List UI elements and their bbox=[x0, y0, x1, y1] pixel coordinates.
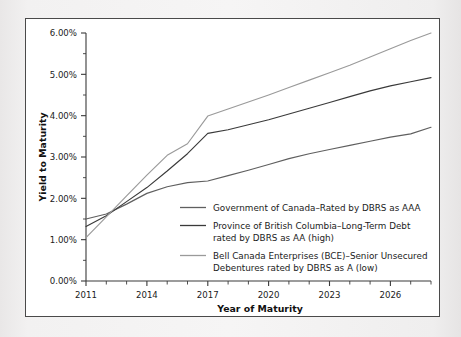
legend-label-bell-canada-enterprises: Bell Canada Enterprises (BCE)–Senior Uns… bbox=[213, 251, 428, 261]
y-tick-label: 3.00% bbox=[50, 152, 77, 162]
x-axis-title: Year of Maturity bbox=[216, 303, 303, 314]
y-axis-title: Yield to Maturity bbox=[37, 113, 48, 203]
yield-curve-chart: 6.00% 5.00% 4.00% 3.00% 2.00% 1.00% 0.00… bbox=[26, 19, 438, 315]
y-tick-label: 1.00% bbox=[50, 235, 77, 245]
legend-label-government-of-canada: Government of Canada–Rated by DBRS as AA… bbox=[213, 203, 421, 213]
y-tick-label: 0.00% bbox=[50, 276, 77, 286]
legend-label-province-of-british-columbia-line2: rated by DBRS as AA (high) bbox=[213, 233, 334, 243]
x-tick-label: 2026 bbox=[379, 290, 401, 300]
y-axis-major-ticks bbox=[81, 33, 86, 281]
y-tick-label: 5.00% bbox=[50, 70, 77, 80]
y-axis-tick-labels: 6.00% 5.00% 4.00% 3.00% 2.00% 1.00% 0.00… bbox=[50, 28, 77, 286]
y-tick-label: 4.00% bbox=[50, 111, 77, 121]
x-tick-label: 2017 bbox=[197, 290, 219, 300]
figure-frame: 6.00% 5.00% 4.00% 3.00% 2.00% 1.00% 0.00… bbox=[25, 18, 440, 317]
x-tick-label: 2011 bbox=[75, 290, 97, 300]
legend-label-province-of-british-columbia: Province of British Columbia–Long-Term D… bbox=[213, 221, 411, 231]
legend-label-bell-canada-enterprises-line2: Debentures rated by DBRS as A (low) bbox=[213, 263, 378, 273]
y-tick-label: 6.00% bbox=[50, 28, 77, 38]
chart-legend: Government of Canada–Rated by DBRS as AA… bbox=[180, 203, 428, 273]
x-tick-label: 2023 bbox=[319, 290, 341, 300]
x-axis-ticks bbox=[86, 281, 431, 286]
x-tick-label: 2020 bbox=[258, 290, 280, 300]
x-tick-label: 2014 bbox=[136, 290, 158, 300]
y-tick-label: 2.00% bbox=[50, 194, 77, 204]
x-axis-tick-labels: 2011 2014 2017 2020 2023 2026 bbox=[75, 290, 401, 300]
page-background: 6.00% 5.00% 4.00% 3.00% 2.00% 1.00% 0.00… bbox=[0, 0, 461, 337]
